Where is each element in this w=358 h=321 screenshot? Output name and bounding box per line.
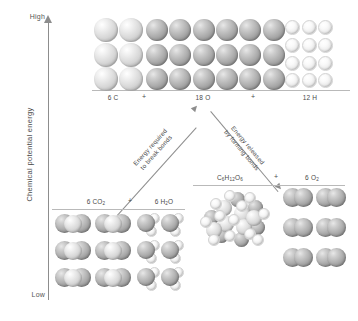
oxygen-atom (146, 19, 168, 41)
carbon-atom (119, 43, 143, 67)
co2-carbon-atom (64, 242, 82, 260)
oxygen-atom (146, 68, 168, 90)
co2-carbon-atom (64, 269, 82, 287)
diagram-canvas: High Low Chemical potential energy 6 C +… (0, 0, 358, 321)
h2o-molecule (161, 241, 183, 263)
glucose-hydrogen-atom (252, 234, 264, 246)
oxygen-atom (193, 68, 215, 90)
oxygen-atom (216, 68, 238, 90)
h2o-oxygen-atom (161, 241, 179, 259)
glucose-hydrogen-atom (214, 210, 226, 222)
glucose-hydrogen-atom (210, 198, 222, 210)
oxygen-atom (239, 44, 261, 66)
glucose-hydrogen-atom (236, 200, 248, 212)
h2o-molecule (137, 214, 159, 236)
o2-molecule (283, 248, 313, 268)
hydrogen-atom (302, 38, 317, 53)
glucose-hydrogen-atom (208, 234, 220, 246)
hydrogen-atom (318, 56, 333, 71)
products-level-baseline (52, 209, 185, 210)
co2-molecule (55, 214, 91, 234)
hydrogen-atom (302, 56, 317, 71)
o2-molecule (283, 218, 313, 238)
o2-oxygen-atom (294, 188, 313, 207)
h2o-oxygen-atom (161, 214, 179, 232)
oxygen-atom (216, 19, 238, 41)
glucose-hydrogen-atom (224, 190, 236, 202)
o2-molecule (283, 188, 313, 208)
carbon-atom (119, 18, 143, 42)
h2o-oxygen-atom (161, 268, 179, 286)
h2o-molecule (161, 268, 183, 290)
hydrogen-atom (318, 20, 333, 35)
co2-carbon-atom (104, 242, 122, 260)
h2o-oxygen-atom (137, 241, 155, 259)
carbon-atom (94, 43, 118, 67)
o2-oxygen-atom (327, 218, 346, 237)
o2-oxygen-atom (294, 248, 313, 267)
label-6h2o: 6 H2O (142, 198, 186, 206)
h2o-molecule (161, 214, 183, 236)
o2-molecule (316, 248, 346, 268)
glucose-hydrogen-atom (200, 216, 212, 228)
h2o-oxygen-atom (137, 268, 155, 286)
h2o-molecule (137, 241, 159, 263)
oxygen-atom (146, 44, 168, 66)
co2-molecule (55, 241, 91, 261)
oxygen-atom (193, 44, 215, 66)
oxygen-atom (169, 44, 191, 66)
h2o-molecule (137, 268, 159, 290)
co2-molecule (55, 268, 91, 288)
co2-molecule (95, 241, 131, 261)
oxygen-atom (263, 44, 285, 66)
o2-molecule (316, 188, 346, 208)
co2-molecule (95, 268, 131, 288)
o2-oxygen-atom (327, 248, 346, 267)
carbon-atom (94, 18, 118, 42)
oxygen-atom (263, 19, 285, 41)
hydrogen-atom (302, 73, 317, 88)
carbon-atom (119, 67, 143, 91)
hydrogen-atom (285, 38, 300, 53)
glucose-hydrogen-atom (228, 214, 240, 226)
o2-oxygen-atom (294, 218, 313, 237)
glucose-hydrogen-atom (224, 230, 236, 242)
co2-carbon-atom (104, 269, 122, 287)
oxygen-atom (263, 68, 285, 90)
oxygen-atom (216, 44, 238, 66)
hydrogen-atom (285, 20, 300, 35)
co2-molecule (95, 214, 131, 234)
hydrogen-atom (318, 38, 333, 53)
h2o-oxygen-atom (137, 214, 155, 232)
o2-molecule (316, 218, 346, 238)
hydrogen-atom (302, 20, 317, 35)
glucose-hydrogen-atom (258, 208, 270, 220)
carbon-atom (94, 67, 118, 91)
hydrogen-atom (285, 56, 300, 71)
oxygen-atom (193, 19, 215, 41)
o2-oxygen-atom (327, 188, 346, 207)
co2-carbon-atom (104, 215, 122, 233)
co2-carbon-atom (64, 215, 82, 233)
plus-sign-4: + (122, 197, 138, 204)
label-6co2: 6 CO2 (74, 198, 118, 206)
